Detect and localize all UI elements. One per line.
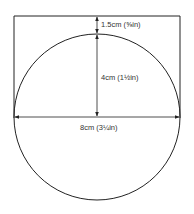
top-gap-label: 1.5cm (⅝in) [101,20,141,29]
circle-template-diagram: 1.5cm (⅝in) 4cm (1½in) 8cm (3¼in) [0,0,194,214]
radius-label: 4cm (1½in) [101,73,139,82]
diameter-label: 8cm (3¼in) [80,123,118,132]
